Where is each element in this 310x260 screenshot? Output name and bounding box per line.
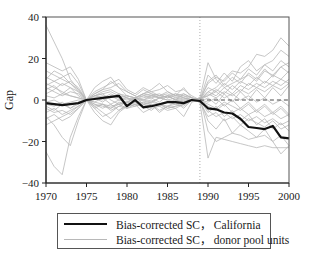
x-tick-label: 1980: [116, 190, 139, 202]
legend-item-california: Bias-corrected SC， California: [64, 217, 261, 231]
x-tick-label: 1995: [238, 190, 261, 202]
legend-swatch-black-line: [64, 223, 107, 225]
legend-label: Bias-corrected SC， donor pool units: [116, 231, 289, 247]
legend: Bias-corrected SC， California Bias-corre…: [57, 213, 271, 249]
axes: 40200−20−401970197519801985199019952000: [22, 11, 301, 202]
x-tick-label: 1990: [197, 190, 220, 202]
y-tick-label: −40: [22, 177, 40, 189]
california-line: [46, 96, 289, 139]
x-tick-label: 1970: [35, 190, 58, 202]
x-tick-label: 2000: [278, 190, 301, 202]
y-tick-label: −20: [22, 136, 40, 148]
gap-line-chart: 40200−20−401970197519801985199019952000 …: [0, 0, 310, 210]
donor-line: [46, 100, 289, 146]
legend-item-donor-pool: Bias-corrected SC， donor pool units: [64, 232, 289, 246]
legend-label: Bias-corrected SC， California: [116, 216, 261, 232]
y-tick-label: 0: [34, 94, 40, 106]
x-tick-label: 1985: [157, 190, 180, 202]
x-tick-label: 1975: [76, 190, 99, 202]
y-axis-label: Gap: [2, 90, 16, 110]
y-tick-label: 40: [28, 11, 40, 23]
y-tick-label: 20: [28, 53, 40, 65]
legend-swatch-gray-line: [64, 239, 107, 240]
